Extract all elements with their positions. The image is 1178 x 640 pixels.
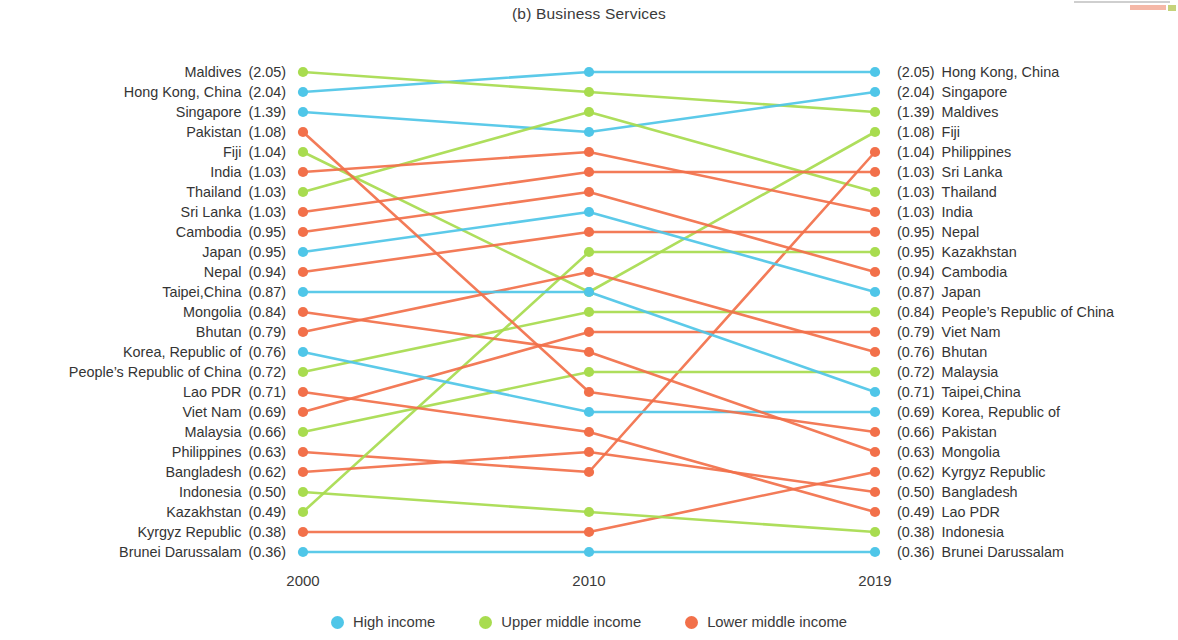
- economy-name: Philippines: [172, 444, 242, 460]
- data-point: [298, 147, 308, 157]
- data-point: [870, 467, 880, 477]
- economy-value: (0.76): [248, 344, 286, 360]
- data-point: [870, 107, 880, 117]
- data-point: [584, 467, 594, 477]
- left-label-row: Lao PDR(0.71): [183, 384, 286, 400]
- economy-value: (1.03): [897, 164, 935, 180]
- legend-item[interactable]: High income: [331, 614, 435, 630]
- economy-value: (0.49): [248, 504, 286, 520]
- data-point: [298, 327, 308, 337]
- economy-value: (0.71): [897, 384, 935, 400]
- economy-name: Maldives: [185, 64, 242, 80]
- economy-value: (0.71): [248, 384, 286, 400]
- economy-name: India: [210, 164, 241, 180]
- data-point: [870, 307, 880, 317]
- economy-name: Sri Lanka: [942, 164, 1003, 180]
- right-label-row: (0.95)Nepal: [897, 224, 979, 240]
- economy-name: Cambodia: [176, 224, 242, 240]
- data-point: [584, 367, 594, 377]
- data-point: [584, 127, 594, 137]
- economy-name: Nepal: [942, 224, 980, 240]
- left-label-row: Kyrgyz Republic(0.38): [137, 524, 286, 540]
- left-label-row: Singapore(1.39): [176, 104, 286, 120]
- left-label-row: Cambodia(0.95): [176, 224, 286, 240]
- economy-name: Mongolia: [183, 304, 241, 320]
- right-label-row: (0.36)Brunei Darussalam: [897, 544, 1064, 560]
- economy-name: Viet Nam: [942, 324, 1001, 340]
- left-label-row: Korea, Republic of(0.76): [123, 344, 286, 360]
- economy-name: Bangladesh: [942, 484, 1018, 500]
- data-point: [584, 67, 594, 77]
- right-label-row: (0.50)Bangladesh: [897, 484, 1018, 500]
- economy-value: (0.63): [897, 444, 935, 460]
- economy-value: (1.04): [248, 144, 286, 160]
- economy-value: (0.62): [248, 464, 286, 480]
- left-label-row: Malaysia(0.66): [185, 424, 286, 440]
- economy-name: Kazakhstan: [942, 244, 1017, 260]
- data-point: [584, 527, 594, 537]
- economy-name: Malaysia: [942, 364, 999, 380]
- right-label-row: (0.84)People’s Republic of China: [897, 304, 1114, 320]
- data-point: [870, 267, 880, 277]
- economy-value: (1.39): [897, 104, 935, 120]
- legend-item[interactable]: Upper middle income: [479, 614, 641, 630]
- data-point: [584, 507, 594, 517]
- data-point: [870, 87, 880, 97]
- left-label-row: Japan(0.95): [202, 244, 286, 260]
- left-label-row: Philippines(0.63): [172, 444, 286, 460]
- legend: High incomeUpper middle incomeLower midd…: [0, 614, 1178, 630]
- economy-value: (1.08): [248, 124, 286, 140]
- data-point: [584, 187, 594, 197]
- data-point: [584, 227, 594, 237]
- economy-value: (0.49): [897, 504, 935, 520]
- economy-name: Japan: [202, 244, 241, 260]
- left-label-row: Mongolia(0.84): [183, 304, 286, 320]
- economy-value: (0.66): [897, 424, 935, 440]
- economy-name: Brunei Darussalam: [942, 544, 1064, 560]
- economy-name: Sri Lanka: [181, 204, 242, 220]
- right-label-row: (1.39)Maldives: [897, 104, 998, 120]
- right-label-row: (0.95)Kazakhstan: [897, 244, 1017, 260]
- data-point: [870, 347, 880, 357]
- right-label-row: (0.94)Cambodia: [897, 264, 1007, 280]
- economy-value: (0.38): [248, 524, 286, 540]
- left-label-row: Fiji(1.04): [223, 144, 286, 160]
- economy-name: Kyrgyz Republic: [942, 464, 1046, 480]
- right-label-row: (0.72)Malaysia: [897, 364, 998, 380]
- data-point: [870, 147, 880, 157]
- left-label-row: Bhutan(0.79): [196, 324, 286, 340]
- economy-name: Bhutan: [942, 344, 988, 360]
- data-point: [584, 87, 594, 97]
- economy-name: Hong Kong, China: [124, 84, 242, 100]
- data-point: [584, 167, 594, 177]
- economy-value: (1.08): [897, 124, 935, 140]
- economy-value: (0.95): [897, 244, 935, 260]
- economy-name: Kazakhstan: [166, 504, 241, 520]
- left-label-row: Thailand(1.03): [186, 184, 286, 200]
- economy-value: (0.87): [897, 284, 935, 300]
- economy-value: (1.03): [897, 204, 935, 220]
- data-point: [870, 327, 880, 337]
- left-label-row: Brunei Darussalam(0.36): [119, 544, 286, 560]
- data-point: [584, 267, 594, 277]
- data-point: [298, 227, 308, 237]
- left-label-row: Hong Kong, China(2.04): [124, 84, 286, 100]
- right-label-row: (2.04)Singapore: [897, 84, 1007, 100]
- economy-value: (1.39): [248, 104, 286, 120]
- right-label-row: (0.71)Taipei,China: [897, 384, 1021, 400]
- data-point: [870, 427, 880, 437]
- data-point: [870, 487, 880, 497]
- economy-value: (0.95): [248, 224, 286, 240]
- economy-name: Malaysia: [185, 424, 242, 440]
- legend-item[interactable]: Lower middle income: [685, 614, 847, 630]
- economy-value: (0.79): [897, 324, 935, 340]
- economy-name: Korea, Republic of: [942, 404, 1060, 420]
- data-point: [298, 207, 308, 217]
- economy-name: India: [942, 204, 973, 220]
- data-point: [298, 367, 308, 377]
- legend-label: High income: [353, 614, 435, 630]
- data-point: [870, 547, 880, 557]
- data-point: [298, 167, 308, 177]
- economy-name: Lao PDR: [942, 504, 1000, 520]
- economy-name: People’s Republic of China: [69, 364, 242, 380]
